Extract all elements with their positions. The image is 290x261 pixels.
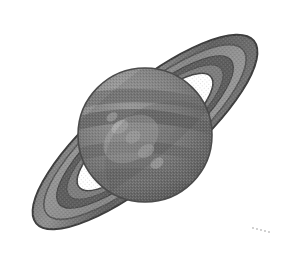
- saturn-illustration: Saturn Grayscale halftone illustration o…: [0, 0, 290, 261]
- illustration-canvas: Saturn Grayscale halftone illustration o…: [0, 0, 290, 261]
